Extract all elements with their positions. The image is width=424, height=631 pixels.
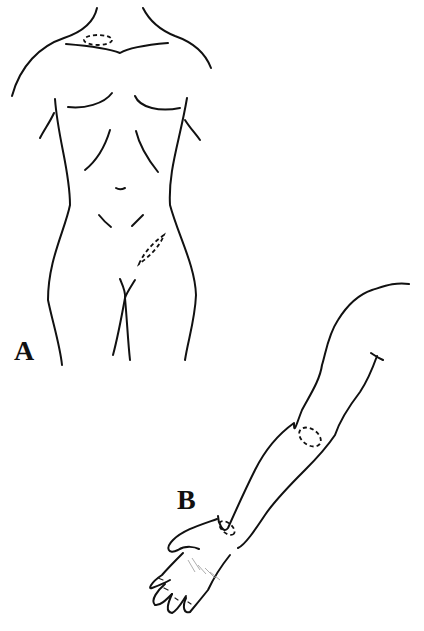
- right-neck-shoulder: [143, 8, 211, 68]
- clavicle-line: [66, 43, 168, 53]
- index-finger: [150, 553, 183, 588]
- left-neck-shoulder: [12, 8, 97, 96]
- arm-upper-contour: [218, 283, 409, 530]
- navel: [116, 188, 125, 189]
- panel-a-torso: [12, 8, 211, 365]
- panel-label-b: B: [177, 484, 196, 516]
- elbow-marked-site: [296, 424, 325, 451]
- left-breast: [68, 93, 112, 107]
- left-torso-contour: [48, 99, 70, 365]
- left-rib-line: [85, 130, 110, 170]
- right-arm-hint: [185, 120, 200, 140]
- left-arm-hint: [40, 113, 54, 138]
- right-breast: [135, 96, 180, 110]
- anatomical-diagram: [0, 0, 424, 631]
- thumb: [168, 519, 217, 552]
- right-torso-contour: [170, 98, 196, 360]
- arm-lower-contour: [238, 353, 383, 548]
- left-inner-thigh: [113, 279, 125, 355]
- inguinal-marked-site: [139, 235, 164, 264]
- right-hip-crease: [132, 215, 143, 226]
- right-rib-line: [136, 131, 158, 172]
- right-inner-thigh: [125, 280, 135, 360]
- panel-b-arm: [150, 283, 409, 613]
- panel-label-a: A: [14, 335, 34, 367]
- left-hip-crease: [99, 215, 111, 227]
- neck-marked-site: [84, 35, 112, 45]
